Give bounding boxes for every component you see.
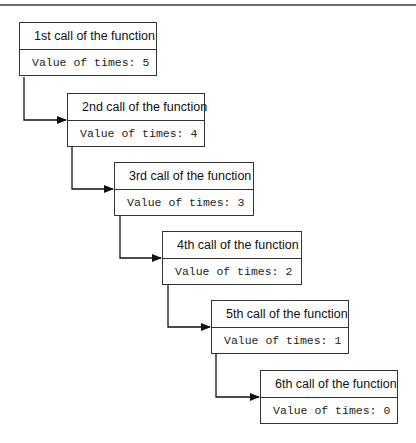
call-title: 6th call of the function xyxy=(261,371,397,398)
call-title: 2nd call of the function xyxy=(68,94,204,121)
call-value: Value of times: 4 xyxy=(68,121,204,147)
call-box-3: 3rd call of the function Value of times:… xyxy=(114,162,254,216)
call-title: 1st call of the function xyxy=(20,23,156,50)
call-box-6: 6th call of the function Value of times:… xyxy=(260,370,398,424)
call-title: 3rd call of the function xyxy=(115,163,253,190)
call-title: 5th call of the function xyxy=(212,301,348,328)
call-box-1: 1st call of the function Value of times:… xyxy=(19,22,157,76)
call-box-2: 2nd call of the function Value of times:… xyxy=(67,93,205,147)
call-title: 4th call of the function xyxy=(163,232,301,259)
call-value: Value of times: 1 xyxy=(212,328,348,354)
call-value: Value of times: 3 xyxy=(115,190,253,216)
call-box-5: 5th call of the function Value of times:… xyxy=(211,300,349,354)
call-value: Value of times: 2 xyxy=(163,259,301,285)
call-value: Value of times: 0 xyxy=(261,398,397,424)
call-box-4: 4th call of the function Value of times:… xyxy=(162,231,302,285)
call-value: Value of times: 5 xyxy=(20,50,156,76)
